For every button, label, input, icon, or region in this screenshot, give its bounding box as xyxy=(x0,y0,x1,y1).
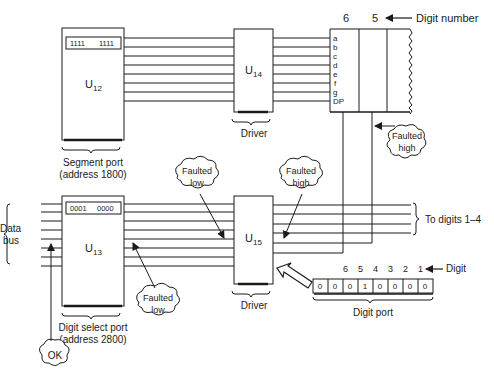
u13-digit-select-port: 0001 0000 U13 xyxy=(62,196,124,306)
segment-b: b xyxy=(333,43,338,52)
svg-text:2: 2 xyxy=(403,264,408,274)
svg-text:Faulted: Faulted xyxy=(286,166,316,176)
u12-caption-2: (address 1800) xyxy=(59,169,126,180)
seven-segment-display: a b c d e f g DP xyxy=(330,29,412,114)
u13-caption-1: Digit select port xyxy=(59,322,128,333)
u15-caption: Driver xyxy=(241,300,268,311)
digit-port-bit-7: 0 xyxy=(318,282,323,291)
svg-text:Faulted: Faulted xyxy=(392,131,422,141)
callout-faulted-high-display: Faulted high xyxy=(387,125,426,158)
svg-text:OK: OK xyxy=(48,350,63,361)
callout-faulted-low-left: Faulted low xyxy=(176,156,219,188)
svg-text:Faulted: Faulted xyxy=(182,166,212,176)
digit-port-bit-1: 0 xyxy=(408,282,413,291)
digit-port-caption: Digit port xyxy=(353,307,393,318)
svg-text:6: 6 xyxy=(343,264,348,274)
circuit-diagram: 6 5 Digit number 1111 1111 U12 Segment p… xyxy=(0,0,494,382)
segment-f: f xyxy=(334,79,337,88)
u14-driver: U14 xyxy=(234,29,273,112)
to-digits-label: To digits 1–4 xyxy=(425,214,482,225)
digit-port-bit-5: 0 xyxy=(348,282,353,291)
u13-u15-bus xyxy=(124,204,234,266)
u12-register-high: 1111 xyxy=(70,39,85,48)
u12-u14-bus xyxy=(124,38,234,101)
svg-text:4: 4 xyxy=(373,264,378,274)
segment-a: a xyxy=(333,34,338,43)
svg-text:Faulted: Faulted xyxy=(143,293,173,303)
u14-display-bus xyxy=(273,38,330,101)
callout-ok: OK xyxy=(39,339,69,365)
digit-port-bit-2: 0 xyxy=(393,282,398,291)
svg-text:high: high xyxy=(398,143,415,153)
display-torn-edge xyxy=(409,29,412,114)
u12-segment-port: 1111 1111 U12 xyxy=(62,28,124,140)
u15-brace xyxy=(232,291,270,297)
digit-port-digit-numbers: 6 5 4 3 2 1 xyxy=(343,264,423,274)
digit-port-to-u15-arrow-icon xyxy=(277,263,312,288)
digit-label: Digit xyxy=(446,263,466,274)
svg-text:high: high xyxy=(292,178,309,188)
u13-register-low: 0000 xyxy=(97,204,114,213)
data-bus-brace xyxy=(4,204,10,264)
u12-brace xyxy=(62,147,120,153)
segment-g: g xyxy=(333,88,337,97)
svg-text:5: 5 xyxy=(358,264,363,274)
u13-brace xyxy=(62,313,120,319)
digit-port-bit-6: 0 xyxy=(333,282,338,291)
u15-driver: U15 xyxy=(234,196,273,284)
segment-c: c xyxy=(333,52,337,61)
svg-text:3: 3 xyxy=(388,264,393,274)
display-digit-5: 5 xyxy=(372,12,378,24)
svg-text:low: low xyxy=(190,178,204,188)
digit-port-bit-4: 1 xyxy=(363,282,368,291)
svg-text:low: low xyxy=(151,305,165,315)
callout-faulted-low-u13: Faulted low xyxy=(137,283,180,315)
u15-output-lines xyxy=(273,205,411,233)
svg-text:1: 1 xyxy=(418,264,423,274)
u14-caption: Driver xyxy=(241,128,268,139)
u12-caption-1: Segment port xyxy=(63,157,123,168)
faulted-low-left-arrow xyxy=(200,194,224,238)
segment-e: e xyxy=(333,70,338,79)
data-bus-label-2: bus xyxy=(3,235,19,246)
digit-port-register: 0 0 0 1 0 0 0 0 xyxy=(313,279,433,294)
digit-port-bit-3: 0 xyxy=(378,282,383,291)
segment-dp: DP xyxy=(333,97,344,106)
data-bus-label-1: Data xyxy=(0,223,22,234)
u14-brace xyxy=(232,119,270,125)
digit-number-label: Digit number xyxy=(416,12,479,24)
u12-register-low: 1111 xyxy=(99,39,114,48)
u13-register-high: 0001 xyxy=(70,204,87,213)
segment-d: d xyxy=(333,61,337,70)
digit-port-bit-0: 0 xyxy=(423,282,428,291)
digit-port-brace xyxy=(313,297,433,303)
u13-caption-2: (address 2800) xyxy=(59,334,126,345)
faulted-high-right-arrow xyxy=(284,194,302,238)
to-digits-brace xyxy=(413,203,419,235)
display-digit-6: 6 xyxy=(343,12,349,24)
callout-faulted-high-right: Faulted high xyxy=(280,156,323,188)
